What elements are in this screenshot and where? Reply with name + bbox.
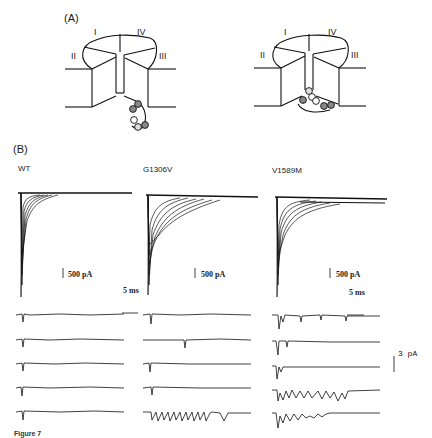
scale-label-500pa-g1306v: 500 pA — [201, 270, 225, 279]
domain-label-ii: II — [71, 51, 76, 61]
channel-diagram-right: I IV II III — [216, 0, 432, 140]
channel-diagram-left: I IV II III — [0, 0, 216, 140]
scale-label-5ms-wt: 5 ms — [123, 286, 139, 295]
scale-label-3pa: 3 pA — [398, 349, 417, 358]
domain-label-iii: III — [159, 51, 167, 61]
domain-label-iv: IV — [328, 27, 337, 37]
scale-label-5ms-v1589m: 5 ms — [349, 288, 365, 297]
scale-label-500pa-v1589m: 500 pA — [336, 270, 360, 279]
domain-label-iii: III — [351, 50, 359, 60]
condition-label-v1589m: V1589M — [272, 166, 302, 175]
macroscopic-current-traces — [0, 185, 432, 305]
figure-caption: Figure 7 — [14, 430, 41, 437]
scale-label-500pa-wt: 500 pA — [68, 270, 92, 279]
domain-label-iv: IV — [137, 27, 146, 37]
panel-b-label: (B) — [13, 143, 28, 155]
domain-label-ii: II — [260, 50, 265, 60]
domain-label-i: I — [284, 27, 287, 37]
domain-label-i: I — [94, 27, 97, 37]
condition-label-g1306v: G1306V — [143, 165, 172, 174]
channel-schematic-open-icon — [0, 0, 216, 140]
channel-schematic-blocked-icon — [216, 0, 432, 140]
condition-label-wt: WT — [18, 164, 30, 173]
single-channel-traces — [0, 300, 432, 420]
